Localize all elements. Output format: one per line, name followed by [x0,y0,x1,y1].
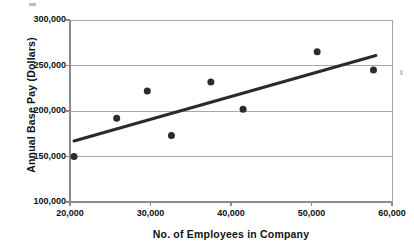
trendline-path [74,55,376,141]
data-point-marker [207,78,214,85]
data-point-marker [71,153,78,160]
data-point-marker [370,67,377,74]
gridlines [70,20,392,202]
data-point-marker [113,115,120,122]
data-point-marker [240,106,247,113]
axis-tick-marks [66,20,392,206]
trendline [74,55,376,141]
data-point-marker [144,87,151,94]
data-point-marker [314,48,321,55]
plot-area [0,0,414,248]
data-point-marker [168,132,175,139]
scan-speck [400,70,403,75]
scan-speck [29,3,36,6]
scatter-chart-figure: Annual Base Pay (Dollars) 300,000 250,00… [0,0,414,248]
